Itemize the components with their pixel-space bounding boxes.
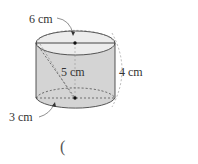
cylinder-diagram: 6 cm 5 cm 4 cm 3 cm ( bbox=[0, 0, 198, 164]
top-center-dot bbox=[73, 41, 76, 44]
top-diameter-label: 6 cm bbox=[29, 12, 53, 26]
slant-label: 5 cm bbox=[61, 65, 85, 79]
bottom-center-dot bbox=[73, 96, 76, 99]
answer-paren: ( bbox=[60, 138, 65, 156]
bottom-radius-label: 3 cm bbox=[9, 110, 33, 124]
height-label: 4 cm bbox=[119, 65, 143, 79]
